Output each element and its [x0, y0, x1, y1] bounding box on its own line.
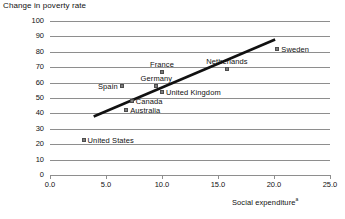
x-tick-label: 0.0 [45, 180, 55, 189]
y-gridline [50, 67, 330, 68]
y-tick-label: 20 [16, 139, 44, 148]
x-tick-label: 15.0 [211, 180, 226, 189]
y-gridline [50, 98, 330, 99]
plot-area: 01020304050607080901000.05.010.015.020.0… [0, 0, 345, 219]
data-point-marker[interactable] [124, 108, 128, 112]
data-point-label: United Kingdom [166, 87, 221, 96]
poverty-rate-scatter-chart: Change in poverty rate 01020304050607080… [0, 0, 345, 219]
y-gridline [50, 113, 330, 114]
data-point-label: Canada [136, 97, 163, 106]
y-tick-label: 50 [16, 93, 44, 102]
y-gridline [50, 129, 330, 130]
x-tick [162, 175, 163, 179]
data-point-marker[interactable] [160, 70, 164, 74]
y-tick-label: 10 [16, 155, 44, 164]
x-axis-footnote-marker: a [296, 196, 299, 202]
data-point-label: Germany [141, 73, 173, 82]
y-gridline [50, 83, 330, 84]
y-gridline [50, 36, 330, 37]
data-point-label: Sweden [281, 44, 309, 53]
data-point-label: France [150, 59, 174, 68]
y-gridline [50, 144, 330, 145]
x-tick [330, 175, 331, 179]
x-axis-title: Social expenditurea [232, 196, 298, 207]
data-point-marker[interactable] [225, 67, 229, 71]
data-point-label: Netherlands [206, 56, 248, 65]
data-point-label: Spain [98, 81, 118, 90]
y-tick-label: 90 [16, 31, 44, 40]
data-point-marker[interactable] [130, 99, 134, 103]
data-point-label: Australia [130, 106, 160, 115]
y-tick-label: 30 [16, 124, 44, 133]
y-tick-label: 0 [16, 170, 44, 179]
y-gridline [50, 160, 330, 161]
x-tick [274, 175, 275, 179]
x-tick-label: 10.0 [155, 180, 170, 189]
data-point-marker[interactable] [82, 138, 86, 142]
x-tick [218, 175, 219, 179]
data-point-marker[interactable] [120, 84, 124, 88]
y-tick-label: 60 [16, 78, 44, 87]
y-gridline [50, 21, 330, 22]
data-point-marker[interactable] [275, 47, 279, 51]
data-point-marker[interactable] [160, 90, 164, 94]
x-tick-label: 20.0 [267, 180, 282, 189]
y-tick-label: 100 [16, 16, 44, 25]
y-tick-label: 70 [16, 62, 44, 71]
x-tick [50, 175, 51, 179]
y-tick-label: 80 [16, 47, 44, 56]
y-tick-label: 40 [16, 108, 44, 117]
x-axis-line [50, 175, 330, 176]
x-axis-title-text: Social expenditure [232, 198, 296, 207]
x-tick [106, 175, 107, 179]
data-point-label: United States [88, 135, 134, 144]
x-tick-label: 25.0 [323, 180, 338, 189]
data-point-marker[interactable] [154, 84, 158, 88]
x-tick-label: 5.0 [101, 180, 111, 189]
